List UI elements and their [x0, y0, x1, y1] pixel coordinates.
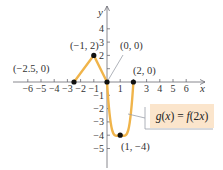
x-tick-label: −5 [36, 83, 47, 94]
data-point [131, 79, 136, 84]
point-labels: (−2.5, 0)(−1, 2)(0, 0)(2, 0)(1, −4) [13, 40, 156, 153]
x-tick-label: −2 [75, 83, 86, 94]
point-label: (−2.5, 0) [13, 63, 50, 75]
function-label-box: g(x) = f(2x) [150, 104, 214, 128]
point-label: (−1, 2) [70, 40, 99, 52]
y-tick-label: −4 [93, 130, 104, 141]
x-tick-label: −6 [22, 83, 33, 94]
point-label: (1, −4) [121, 141, 150, 153]
x-axis-label: x [199, 82, 205, 94]
x-tick-label: 4 [157, 83, 162, 94]
y-tick-label: 2 [99, 50, 104, 61]
x-tick-label: 6 [184, 83, 189, 94]
data-point [104, 79, 109, 84]
y-tick-label: −3 [93, 116, 104, 127]
y-tick-label: −2 [93, 103, 104, 114]
point-label: (0, 0) [120, 40, 143, 52]
x-tick-label: −3 [62, 83, 73, 94]
function-label-text: g(x) = f(2x) [156, 110, 209, 123]
y-tick-label: −1 [93, 90, 104, 101]
y-tick-label: 4 [99, 23, 104, 34]
x-tick-label: 3 [144, 83, 149, 94]
x-tick-label: 1 [118, 83, 123, 94]
point-label: (2, 0) [133, 65, 156, 77]
y-tick-label: −5 [93, 143, 104, 154]
x-tick-label: 5 [171, 83, 176, 94]
y-axis-label: y [97, 6, 103, 18]
ticks: −6−5−4−3−2−113456432−1−2−3−4−5 [22, 23, 188, 154]
data-point [118, 133, 123, 138]
function-graph: xy −6−5−4−3−2−113456432−1−2−3−4−5 (−2.5,… [0, 0, 223, 170]
y-tick-label: 3 [99, 37, 104, 48]
x-tick-label: −4 [49, 83, 60, 94]
data-point [71, 79, 76, 84]
data-point [91, 53, 96, 58]
